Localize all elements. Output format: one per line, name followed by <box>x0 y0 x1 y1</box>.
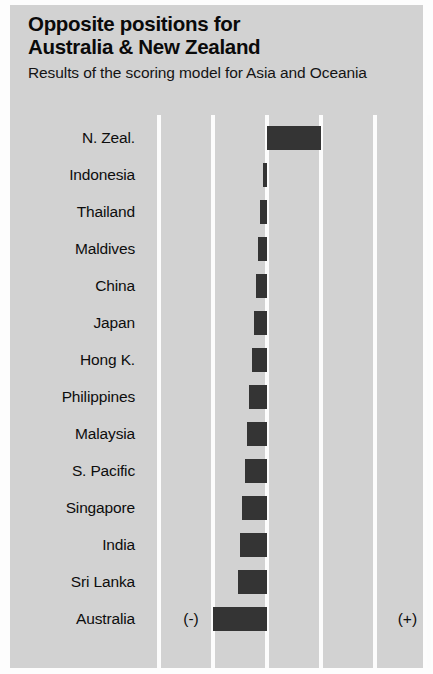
negative-axis-label: (-) <box>183 600 199 637</box>
chart-header: Opposite positions for Australia & New Z… <box>28 13 408 82</box>
bar <box>247 422 267 446</box>
bar <box>267 126 321 150</box>
chart-title-line1: Opposite positions for <box>28 12 240 35</box>
bar-row: Maldives <box>10 230 423 267</box>
bar-row-label: Australia <box>10 600 135 637</box>
bar-row-label: Sri Lanka <box>10 563 135 600</box>
bar-row: Australia <box>10 600 423 637</box>
chart-plot-area: N. Zeal.IndonesiaThailandMaldivesChinaJa… <box>10 115 423 668</box>
bar <box>240 533 267 557</box>
bar-row: Malaysia <box>10 415 423 452</box>
bar-row: Hong K. <box>10 341 423 378</box>
bar <box>252 348 267 372</box>
bar-row-label: Maldives <box>10 230 135 267</box>
bar <box>258 237 267 261</box>
bar-rows: N. Zeal.IndonesiaThailandMaldivesChinaJa… <box>10 115 423 668</box>
bar-row: Sri Lanka <box>10 563 423 600</box>
bar-row-label: N. Zeal. <box>10 119 135 156</box>
bar <box>238 570 267 594</box>
chart-title: Opposite positions for Australia & New Z… <box>28 13 408 59</box>
bar-row: Japan <box>10 304 423 341</box>
bar-row: S. Pacific <box>10 452 423 489</box>
bar-row: Thailand <box>10 193 423 230</box>
bar-row-label: Philippines <box>10 378 135 415</box>
bar-row: Indonesia <box>10 156 423 193</box>
bar-row-label: China <box>10 267 135 304</box>
positive-axis-label: (+) <box>398 600 417 637</box>
bar-row-label: Hong K. <box>10 341 135 378</box>
bar <box>242 496 267 520</box>
chart-title-line2: Australia & New Zealand <box>28 35 260 58</box>
bar-row: Philippines <box>10 378 423 415</box>
bar-row: N. Zeal. <box>10 119 423 156</box>
bar-row-label: India <box>10 526 135 563</box>
bar-row-label: Singapore <box>10 489 135 526</box>
bar-row-label: Thailand <box>10 193 135 230</box>
bar <box>213 607 267 631</box>
bar <box>263 163 267 187</box>
bar-row-label: Japan <box>10 304 135 341</box>
bar <box>260 200 267 224</box>
bar <box>254 311 267 335</box>
bar-row-label: S. Pacific <box>10 452 135 489</box>
bar <box>256 274 267 298</box>
bar-row-label: Malaysia <box>10 415 135 452</box>
bar-row-label: Indonesia <box>10 156 135 193</box>
bar-row: China <box>10 267 423 304</box>
bar <box>245 459 267 483</box>
gridline <box>427 115 431 668</box>
bar <box>249 385 267 409</box>
chart-subtitle: Results of the scoring model for Asia an… <box>28 63 408 83</box>
bar-row: Singapore <box>10 489 423 526</box>
bar-row: India <box>10 526 423 563</box>
chart-panel: Opposite positions for Australia & New Z… <box>10 5 423 668</box>
